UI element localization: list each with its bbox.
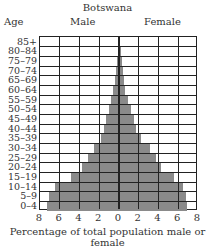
gridline-v [178, 37, 179, 209]
x-tick-label: 0 [111, 212, 125, 223]
age-group-label: 45–49 [8, 114, 37, 124]
male-label: Male [70, 16, 95, 27]
age-axis-label: Age [4, 16, 24, 27]
x-tick-label: 6 [170, 212, 184, 223]
x-axis-label: Percentage of total population male or f… [0, 226, 215, 248]
x-tick-label: 8 [190, 212, 204, 223]
x-tick-label: 2 [91, 212, 105, 223]
age-group-label: 75–79 [8, 56, 37, 66]
pyramid-plot [39, 36, 197, 210]
age-group-label: 0–4 [20, 201, 37, 211]
x-tick-label: 4 [72, 212, 86, 223]
gridline-v [158, 37, 159, 209]
x-tick-label: 2 [131, 212, 145, 223]
age-group-label: 30–34 [8, 143, 37, 153]
gridline-v [138, 37, 139, 209]
chart-title: Botswana [0, 2, 215, 13]
bar-male [47, 201, 119, 211]
female-label: Female [144, 16, 181, 27]
gridline-v [99, 37, 100, 209]
age-group-label: 15–19 [8, 172, 37, 182]
x-tick-label: 4 [151, 212, 165, 223]
gridline-v [118, 37, 120, 209]
x-tick-label: 6 [52, 212, 66, 223]
x-tick-label: 8 [32, 212, 46, 223]
gridline-v [79, 37, 80, 209]
age-group-label: 60–64 [8, 85, 37, 95]
gridline-v [59, 37, 60, 209]
